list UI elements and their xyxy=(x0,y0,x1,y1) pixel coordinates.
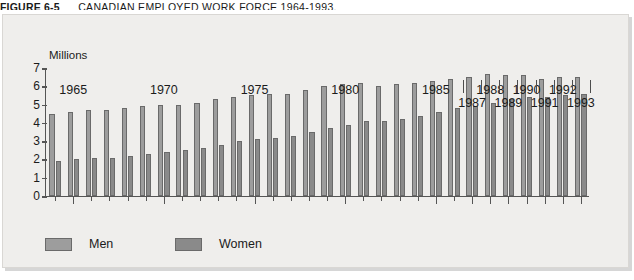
x-tick-label: 1965 xyxy=(59,83,87,97)
bar-women-1971 xyxy=(183,150,188,196)
bar-women-1991 xyxy=(545,97,550,196)
x-tick-mark xyxy=(200,197,201,201)
y-tick-label: 0 xyxy=(26,189,40,204)
bar-women-1976 xyxy=(273,138,278,197)
x-tick-mark xyxy=(490,197,491,204)
y-tick-label: 6 xyxy=(26,79,40,94)
bar-women-1964 xyxy=(56,161,61,196)
bar-group xyxy=(46,69,589,196)
bar-men-1966 xyxy=(86,110,91,196)
y-tick-label: 1 xyxy=(26,171,40,186)
legend-label: Men xyxy=(89,237,113,251)
legend-label: Women xyxy=(219,237,262,251)
x-tick-mark xyxy=(128,197,129,201)
bar-men-1987 xyxy=(466,77,471,196)
y-tick-mark xyxy=(42,178,47,180)
bar-women-1986 xyxy=(455,108,460,196)
y-tick-label: 2 xyxy=(26,152,40,167)
x-tick-mark xyxy=(309,197,310,201)
x-tick-mark xyxy=(109,197,110,201)
x-tick-mark xyxy=(164,197,165,204)
x-tick-mark xyxy=(527,197,528,204)
x-label-separator xyxy=(590,80,591,93)
y-tick-label: 5 xyxy=(26,98,40,113)
x-tick-mark xyxy=(508,197,509,204)
bar-men-1984 xyxy=(412,83,417,196)
x-tick-mark xyxy=(273,197,274,201)
x-tick-mark xyxy=(73,197,74,204)
x-tick-mark xyxy=(255,197,256,204)
figure-caption: FIGURE 6-5 CANADIAN EMPLOYED WORK FORCE … xyxy=(0,0,634,10)
x-tick-label: 1985 xyxy=(422,83,450,97)
y-tick-mark xyxy=(42,196,47,198)
bar-women-1972 xyxy=(201,148,206,196)
bar-men-1978 xyxy=(303,90,308,196)
bar-women-1978 xyxy=(309,132,314,196)
plot-area: 01234567 1965197019751980198519881990199… xyxy=(45,69,589,197)
x-tick-label-secondary: 1989 xyxy=(494,96,522,110)
bar-men-1985 xyxy=(430,81,435,196)
x-tick-mark xyxy=(363,197,364,201)
bar-men-1980 xyxy=(340,84,345,196)
x-label-separator xyxy=(572,80,573,93)
bar-men-1965 xyxy=(68,112,73,196)
figure-number: FIGURE 6-5 xyxy=(0,1,60,10)
x-label-separator xyxy=(554,80,555,93)
legend-item-women[interactable]: Women xyxy=(175,237,262,251)
bar-women-1970 xyxy=(164,152,169,196)
chart-plate: Millions 01234567 1965197019751980198519… xyxy=(2,14,629,268)
bar-men-1982 xyxy=(376,86,381,196)
bar-women-1989 xyxy=(509,99,514,196)
x-tick-mark xyxy=(454,197,455,201)
y-tick-mark xyxy=(42,141,47,143)
bar-women-1985 xyxy=(436,112,441,196)
bar-men-1969 xyxy=(140,106,145,196)
y-tick-mark xyxy=(42,86,47,88)
y-tick-mark xyxy=(42,159,47,161)
x-label-separator xyxy=(463,80,464,93)
bar-women-1977 xyxy=(291,136,296,196)
x-tick-mark xyxy=(418,197,419,201)
y-tick-mark xyxy=(42,68,47,70)
bar-women-1967 xyxy=(110,158,115,196)
bar-women-1988 xyxy=(491,103,496,196)
bar-men-1974 xyxy=(231,97,236,196)
bar-women-1973 xyxy=(219,145,224,196)
bar-women-1966 xyxy=(92,158,97,196)
x-label-separator xyxy=(517,80,518,93)
bar-women-1990 xyxy=(527,97,532,196)
x-tick-mark xyxy=(236,197,237,201)
x-tick-mark xyxy=(545,197,546,204)
bar-men-1981 xyxy=(358,83,363,196)
y-axis-label: Millions xyxy=(49,49,87,61)
x-tick-label-secondary: 1987 xyxy=(458,96,486,110)
x-tick-mark xyxy=(381,197,382,201)
x-tick-mark xyxy=(146,197,147,201)
bar-men-1971 xyxy=(176,105,181,196)
bar-women-1987 xyxy=(473,106,478,196)
bar-women-1975 xyxy=(255,139,260,196)
y-tick-mark xyxy=(42,105,47,107)
x-tick-mark xyxy=(55,197,56,201)
bar-men-1977 xyxy=(285,94,290,196)
bar-men-1968 xyxy=(122,108,127,196)
x-tick-label: 1970 xyxy=(150,83,178,97)
bar-women-1984 xyxy=(418,116,423,196)
bar-women-1982 xyxy=(382,121,387,196)
y-tick-label: 7 xyxy=(26,61,40,76)
legend-item-men[interactable]: Men xyxy=(45,237,113,251)
y-tick-mark xyxy=(42,123,47,125)
bar-men-1979 xyxy=(321,86,326,196)
x-tick-mark xyxy=(91,197,92,201)
x-tick-mark xyxy=(182,197,183,201)
x-label-separator xyxy=(536,80,537,93)
y-tick-label: 4 xyxy=(26,116,40,131)
bar-women-1983 xyxy=(400,119,405,196)
x-label-separator xyxy=(481,80,482,93)
x-tick-mark xyxy=(400,197,401,201)
x-tick-mark xyxy=(436,197,437,204)
bar-women-1979 xyxy=(328,128,333,196)
bar-women-1992 xyxy=(563,95,568,196)
x-tick-label: 1975 xyxy=(241,83,269,97)
x-tick-mark xyxy=(218,197,219,201)
